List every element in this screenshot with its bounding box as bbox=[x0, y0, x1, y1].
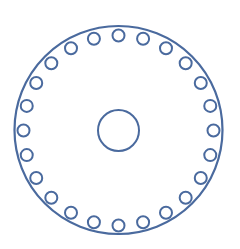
bolt-hole bbox=[160, 42, 172, 54]
bolt-hole bbox=[45, 57, 57, 69]
bolt-hole bbox=[137, 33, 149, 45]
bolt-hole bbox=[88, 216, 100, 228]
bolt-hole bbox=[180, 192, 192, 204]
bolt-hole bbox=[65, 207, 77, 219]
center-bore-circle bbox=[98, 110, 139, 151]
bolt-hole bbox=[30, 172, 42, 184]
flange-diagram bbox=[0, 0, 240, 249]
bolt-hole bbox=[113, 30, 125, 42]
bolt-hole bbox=[160, 207, 172, 219]
bolt-hole bbox=[18, 125, 30, 137]
bolt-hole bbox=[137, 216, 149, 228]
bolt-hole bbox=[30, 77, 42, 89]
bolt-hole bbox=[113, 220, 125, 232]
bolt-hole bbox=[88, 33, 100, 45]
bolt-hole bbox=[65, 42, 77, 54]
bolt-hole bbox=[195, 172, 207, 184]
bolt-hole bbox=[195, 77, 207, 89]
bolt-hole bbox=[204, 149, 216, 161]
bolt-hole bbox=[204, 100, 216, 112]
bolt-hole bbox=[21, 149, 33, 161]
bolt-hole-ring bbox=[18, 30, 220, 232]
bolt-hole bbox=[21, 100, 33, 112]
outer-circle bbox=[15, 26, 223, 234]
bolt-hole bbox=[208, 125, 220, 137]
bolt-hole bbox=[180, 57, 192, 69]
bolt-hole bbox=[45, 192, 57, 204]
